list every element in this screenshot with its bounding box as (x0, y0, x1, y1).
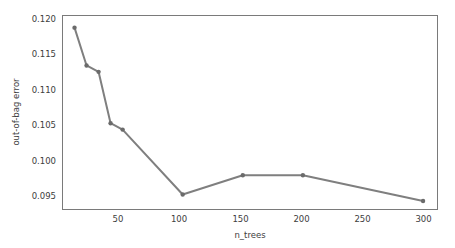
y-tick-label: 0.100 (32, 156, 56, 166)
x-tick-label: 300 (415, 214, 431, 224)
data-point-marker (180, 192, 184, 196)
data-point-marker (72, 25, 76, 29)
line-chart-figure: 0.120 0.115 0.110 0.105 0.100 0.095 50 1… (0, 0, 455, 248)
data-point-marker (108, 121, 112, 125)
y-tick-label: 0.095 (32, 191, 56, 201)
data-point-marker (84, 63, 88, 67)
chart-page: 0.120 0.115 0.110 0.105 0.100 0.095 50 1… (0, 0, 455, 248)
data-point-marker (301, 173, 305, 177)
x-tick-label: 200 (293, 214, 309, 224)
y-tick-label: 0.115 (32, 49, 56, 59)
x-tick-label: 50 (113, 214, 124, 224)
data-point-marker (241, 173, 245, 177)
y-tick-label: 0.120 (32, 14, 56, 24)
y-axis-title: out-of-bag error (11, 78, 21, 146)
data-point-marker (421, 199, 425, 203)
data-point-marker (96, 70, 100, 74)
plot-canvas: 0.120 0.115 0.110 0.105 0.100 0.095 50 1… (0, 0, 455, 248)
x-tick-label: 250 (354, 214, 370, 224)
data-point-marker (120, 127, 124, 131)
x-axis-title: n_trees (234, 230, 266, 240)
y-tick-label: 0.105 (32, 120, 56, 130)
y-tick-label: 0.110 (32, 85, 56, 95)
x-tick-label: 100 (171, 214, 187, 224)
figure-background (0, 0, 455, 248)
x-tick-label: 150 (232, 214, 248, 224)
